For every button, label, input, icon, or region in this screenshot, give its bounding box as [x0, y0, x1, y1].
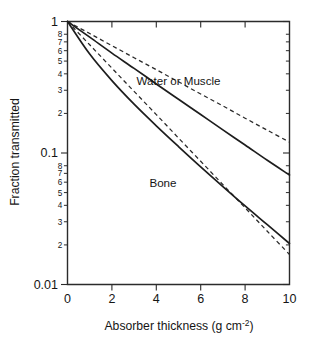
x-axis-tick-labels: 0246810 [64, 292, 296, 306]
x-tick-label: 2 [108, 292, 115, 306]
figure-container: 10.10.0187654328765432 0246810 Water or … [0, 0, 313, 346]
y-axis-right-ticks [283, 22, 290, 285]
y-tick-label-minor: 2 [58, 109, 63, 118]
y-axis-title: Fraction transmitted [8, 98, 22, 206]
x-axis-ticks [112, 22, 245, 291]
x-tick-label: 10 [283, 292, 297, 306]
y-tick-label-minor: 3 [58, 218, 63, 227]
y-tick-label-minor: 4 [58, 201, 63, 210]
x-axis-title-main: Absorber thickness (g cm [104, 319, 242, 333]
y-tick-label-minor: 5 [58, 57, 63, 66]
y-tick-label-minor: 3 [58, 86, 63, 95]
x-tick-label: 8 [242, 292, 249, 306]
x-axis-title-tail: ) [249, 319, 253, 333]
curve-annotations: Water or MuscleBone [137, 74, 221, 189]
y-tick-label-minor: 6 [58, 47, 63, 56]
y-tick-label-major: 0.1 [41, 146, 58, 160]
y-tick-label-minor: 5 [58, 189, 63, 198]
y-axis-tick-labels: 10.10.0187654328765432 [34, 15, 63, 292]
y-tick-label-minor: 2 [58, 241, 63, 250]
y-tick-label-minor: 7 [58, 38, 63, 47]
y-tick-label-major: 1 [51, 15, 58, 29]
semilog-attenuation-chart: 10.10.0187654328765432 0246810 Water or … [0, 0, 313, 346]
y-tick-label-minor: 4 [58, 70, 63, 79]
data-curves [68, 22, 290, 255]
curve-dashed [68, 22, 290, 255]
curve-annotation: Water or Muscle [137, 74, 221, 87]
y-tick-label-minor: 7 [58, 169, 63, 178]
curve-solid [68, 22, 290, 244]
x-tick-label: 0 [64, 292, 71, 306]
x-tick-label: 4 [153, 292, 160, 306]
curve-solid [68, 22, 290, 176]
y-tick-label-minor: 6 [58, 178, 63, 187]
y-tick-label-major: 0.01 [34, 278, 58, 292]
curve-annotation: Bone [149, 176, 176, 189]
x-tick-label: 6 [197, 292, 204, 306]
x-axis-title: Absorber thickness (g cm-2) [104, 318, 253, 334]
